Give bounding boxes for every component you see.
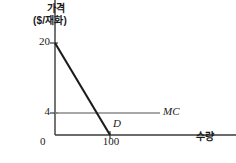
y-axis-title-units: ($/재화) — [18, 16, 82, 27]
demand-curve — [55, 43, 110, 135]
marginal-cost-curve-label: MC — [163, 106, 180, 118]
y-tick-label-20: 20 — [28, 36, 50, 48]
y-axis-title-price: 가격 — [30, 4, 82, 15]
x-tick-label-100: 100 — [96, 136, 126, 148]
demand-curve-label: D — [113, 118, 121, 130]
y-tick-label-4: 4 — [33, 106, 50, 118]
x-axis-title-quantity: 수량 — [196, 132, 214, 143]
economics-demand-mc-diagram: 가격 ($/재화) 수량 20 4 0 100 MC D — [0, 0, 236, 163]
origin-label: 0 — [40, 136, 46, 148]
